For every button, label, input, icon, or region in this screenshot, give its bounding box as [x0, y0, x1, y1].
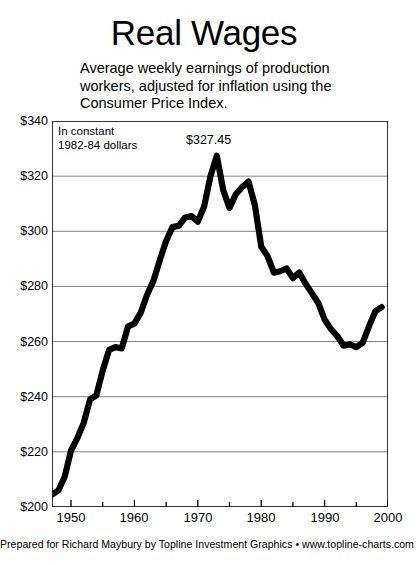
y-axis-tick-220: $220 [0, 446, 48, 459]
x-axis-tick-1970: 1970 [168, 511, 228, 524]
plot-area [52, 121, 388, 507]
chart-svg [52, 121, 388, 507]
x-axis-ticks [71, 500, 388, 507]
y-axis-tick-260: $260 [0, 336, 48, 349]
constant-dollars-note: In constant 1982-84 dollars [58, 125, 137, 152]
x-axis-tick-1990: 1990 [295, 511, 355, 524]
y-axis-tick-240: $240 [0, 391, 48, 404]
x-axis-tick-1960: 1960 [104, 511, 164, 524]
x-axis-tick-1950: 1950 [41, 511, 101, 524]
y-axis-tick-300: $300 [0, 225, 48, 238]
subtitle-line-1: Average weekly earnings of production [80, 60, 345, 78]
x-axis-tick-2000: 2000 [358, 511, 418, 524]
note-line-2: 1982-84 dollars [58, 139, 137, 153]
subtitle-line-3: Consumer Price Index. [80, 95, 345, 113]
data-line-real-wages [52, 156, 382, 495]
y-axis-tick-320: $320 [0, 170, 48, 183]
subtitle-line-2: workers, adjusted for inflation using th… [80, 78, 345, 96]
gridlines [52, 176, 388, 452]
page-title: Real Wages [0, 14, 408, 52]
note-line-1: In constant [58, 125, 137, 139]
chart-subtitle: Average weekly earnings of production wo… [80, 60, 345, 113]
y-axis-tick-280: $280 [0, 280, 48, 293]
peak-value-label: $327.45 [186, 134, 231, 147]
footer-credit: Prepared for Richard Maybury by Topline … [0, 538, 408, 550]
x-axis-tick-1980: 1980 [231, 511, 291, 524]
y-axis-tick-340: $340 [0, 115, 48, 128]
